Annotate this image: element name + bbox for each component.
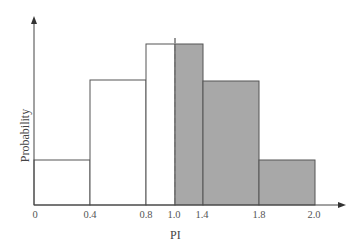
y-axis-label: Probability [18,101,33,171]
x-tick: 1.8 [252,209,265,220]
x-tick: 1.4 [195,209,208,220]
x-axis-label: PI [170,228,181,243]
bar-0.4-0.8 [90,80,146,205]
bar-1.4-1.8 [203,81,259,205]
y-axis-arrow-icon [31,16,37,24]
bar-1.8-2.0 [259,160,315,205]
x-tick: 0.8 [139,209,152,220]
x-tick: 0.4 [83,209,96,220]
bar-0-0.4 [34,160,90,205]
bar-1.0-1.4 [175,44,203,205]
x-tick: 2.0 [307,209,320,220]
x-tick: 0 [32,209,37,220]
bar-0.8-1.0 [146,44,175,205]
x-axis-arrow-icon [338,202,346,208]
x-tick: 1.0 [167,209,180,220]
